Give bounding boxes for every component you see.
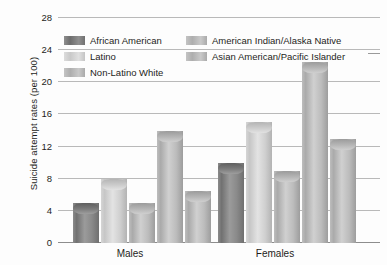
bar-females-asian-american[interactable] bbox=[330, 139, 356, 243]
legend-item-latino: Latino bbox=[64, 51, 186, 62]
ytick-label-20: 20 bbox=[41, 76, 52, 87]
legend-item-asian-american: Asian American/Pacific Islander bbox=[186, 51, 376, 62]
gridline-16: 16 bbox=[58, 113, 380, 114]
y-axis-title: Suicide attempt rates (per 100) bbox=[28, 29, 39, 219]
gridline-28: 28 bbox=[58, 17, 380, 18]
legend-label-african-american: African American bbox=[90, 35, 162, 46]
ytick-label-4: 4 bbox=[47, 204, 52, 215]
bar-males-asian-american[interactable] bbox=[185, 191, 211, 243]
ytick-label-0: 0 bbox=[47, 237, 52, 248]
legend-label-american-indian: American Indian/Alaska Native bbox=[212, 35, 341, 46]
legend-swatch-icon-american-indian bbox=[186, 36, 207, 45]
legend-swatch-icon-non-latino-white bbox=[64, 68, 85, 77]
legend-label-non-latino-white: Non-Latino White bbox=[90, 67, 163, 78]
bar-females-american-indian[interactable] bbox=[302, 62, 328, 243]
legend-swatch-icon-latino bbox=[64, 52, 85, 61]
bar-females-non-latino-white[interactable] bbox=[274, 171, 300, 243]
legend-trailing-rule bbox=[368, 53, 380, 54]
chart-legend: African American American Indian/Alaska … bbox=[64, 32, 376, 80]
ytick-label-12: 12 bbox=[41, 140, 52, 151]
gridline-20: 20 bbox=[58, 81, 380, 82]
bar-males-african-american[interactable] bbox=[73, 203, 99, 243]
ytick-label-24: 24 bbox=[41, 44, 52, 55]
legend-label-asian-american: Asian American/Pacific Islander bbox=[212, 51, 345, 62]
ytick-label-16: 16 bbox=[41, 108, 52, 119]
legend-swatch-icon-asian-american bbox=[186, 52, 207, 61]
legend-label-latino: Latino bbox=[90, 51, 116, 62]
group-label-females: Females bbox=[256, 248, 294, 259]
bar-males-non-latino-white[interactable] bbox=[129, 203, 155, 243]
legend-item-african-american: African American bbox=[64, 35, 186, 46]
legend-item-american-indian: American Indian/Alaska Native bbox=[186, 35, 376, 46]
ytick-label-8: 8 bbox=[47, 172, 52, 183]
group-label-males: Males bbox=[117, 248, 144, 259]
ytick-label-28: 28 bbox=[41, 12, 52, 23]
bar-males-latino[interactable] bbox=[101, 179, 127, 243]
legend-item-non-latino-white: Non-Latino White bbox=[64, 67, 186, 78]
bar-males-american-indian[interactable] bbox=[157, 131, 183, 244]
chart-figure: Suicide attempt rates (per 100) 28 24 20… bbox=[0, 0, 387, 265]
bar-females-latino[interactable] bbox=[246, 122, 272, 243]
bar-females-african-american[interactable] bbox=[218, 163, 244, 243]
legend-swatch-icon-african-american bbox=[64, 36, 85, 45]
